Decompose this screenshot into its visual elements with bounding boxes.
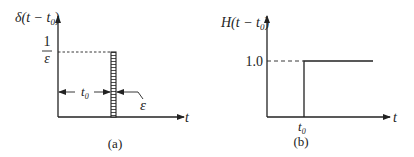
height-denominator: ε — [44, 51, 50, 66]
caption-a: (a) — [108, 136, 122, 151]
step-function-line — [304, 61, 373, 117]
level-label: 1.0 — [246, 54, 264, 69]
epsilon-label: ε — [140, 97, 146, 113]
x-axis-label: t — [185, 110, 190, 125]
pulse-rectangle — [111, 52, 116, 117]
caption-b: (b) — [293, 134, 308, 149]
x-axis-label: t — [393, 110, 398, 125]
width-label-t0: t0 — [81, 84, 89, 101]
diagram: δ(t − t0) 1 ε t0 ε t (a) H(t − t0) 1.0 t… — [0, 0, 414, 157]
y-axis-label: δ(t − t0) — [15, 10, 60, 27]
panel-b-heaviside-step: H(t − t0) 1.0 t0 t (b) — [220, 15, 398, 149]
height-numerator: 1 — [44, 34, 51, 49]
y-axis-label: H(t − t0) — [220, 15, 270, 32]
panel-a-dirac-delta: δ(t − t0) 1 ε t0 ε t (a) — [15, 10, 190, 151]
